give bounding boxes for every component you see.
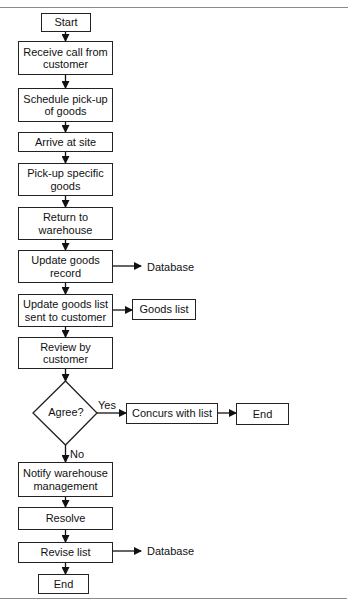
edge-label-no: No [70,448,84,460]
node-update-record: Update goods record [18,250,113,283]
node-pickup-goods: Pick-up specific goods [18,163,113,196]
node-resolve: Resolve [18,507,113,530]
node-resolve-label: Resolve [46,512,86,525]
node-end-bottom: End [38,574,89,594]
output-goods-list: Goods list [132,299,196,320]
node-arrive-label: Arrive at site [35,136,96,149]
edge-label-yes: Yes [98,399,116,411]
node-schedule-pickup: Schedule pick-up of goods [18,88,113,122]
node-review-label: Review by customer [19,341,112,366]
node-return-warehouse-label: Return to warehouse [19,211,112,236]
node-return-warehouse: Return to warehouse [18,207,113,240]
node-start: Start [41,13,91,32]
output-database-2: Database [147,545,194,557]
node-start-label: Start [54,16,77,29]
node-update-list-label: Update goods list sent to customer [19,298,112,323]
node-revise-label: Revise list [40,546,90,559]
node-update-record-label: Update goods record [19,254,112,279]
node-revise: Revise list [18,542,113,563]
node-review: Review by customer [18,337,113,369]
output-database-1: Database [147,261,194,273]
output-goods-list-label: Goods list [140,303,189,316]
node-schedule-pickup-label: Schedule pick-up of goods [19,93,112,118]
node-update-list: Update goods list sent to customer [18,294,113,327]
node-arrive: Arrive at site [18,132,113,152]
node-end-bottom-label: End [54,578,74,591]
node-concurs: Concurs with list [126,403,218,424]
node-receive-call-label: Receive call from customer [19,46,112,71]
node-end-right: End [236,403,289,425]
node-end-right-label: End [253,408,273,421]
node-notify: Notify warehouse management [18,462,113,497]
node-pickup-goods-label: Pick-up specific goods [19,167,112,192]
node-notify-label: Notify warehouse management [19,467,112,492]
decision-label: Agree? [36,406,96,418]
node-receive-call: Receive call from customer [18,41,113,75]
node-concurs-label: Concurs with list [132,407,212,420]
